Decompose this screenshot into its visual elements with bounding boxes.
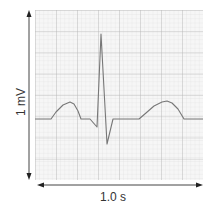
grid-paper (35, 10, 203, 180)
x-axis-label: 1.0 s (100, 190, 126, 204)
x-axis-arrow (37, 183, 203, 188)
ecg-diagram (0, 0, 214, 209)
y-axis-label: 1 mV (14, 87, 28, 117)
